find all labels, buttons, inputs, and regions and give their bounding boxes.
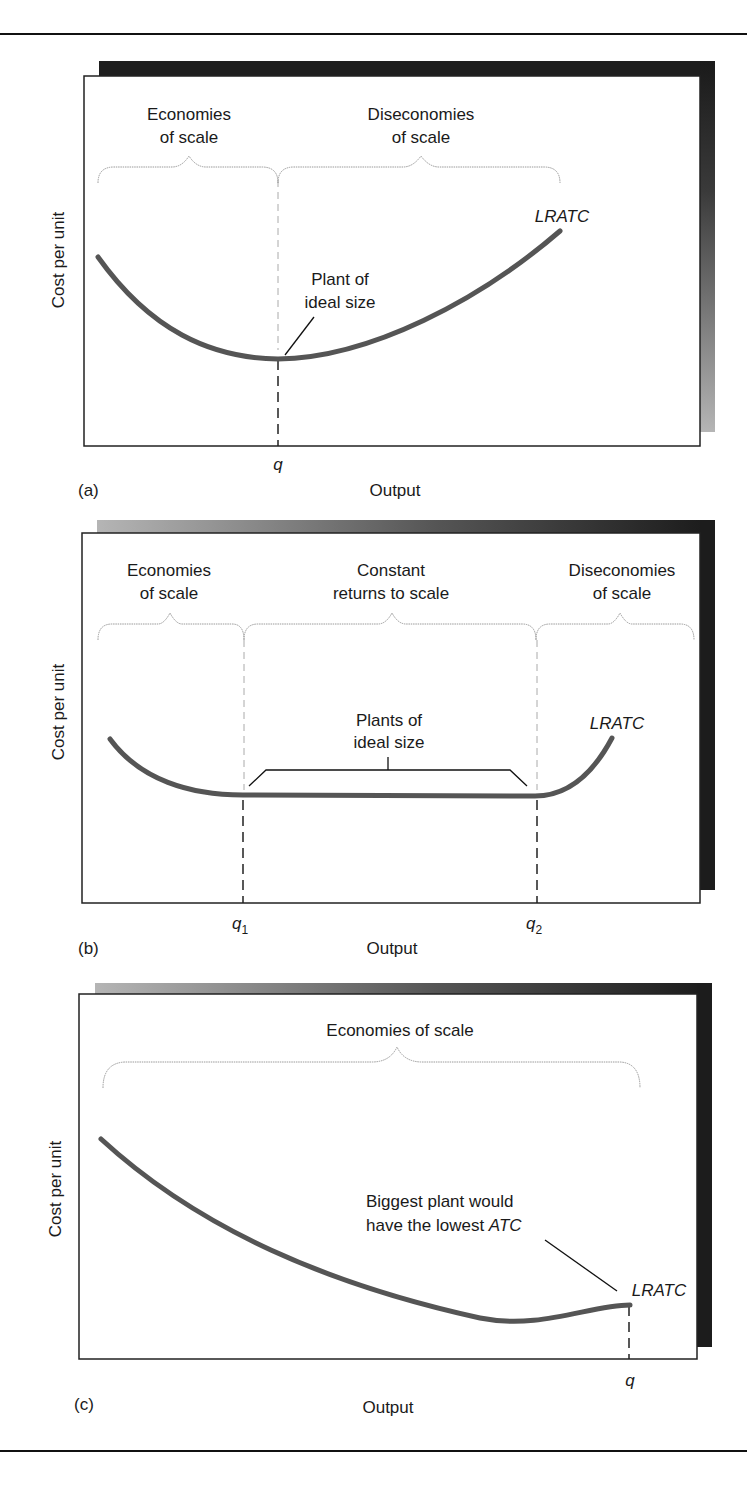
- panel-a-xlabel: Output: [369, 481, 420, 500]
- panel-a-annotation-line1: Plant of: [311, 270, 369, 289]
- panel-c-frame: [79, 994, 697, 1359]
- panel-a-region-2-line2: of scale: [392, 128, 451, 147]
- panel-b-ylabel: Cost per unit: [49, 664, 68, 761]
- panel-c: Economies of scale Cost per unit LRATC B…: [46, 983, 712, 1417]
- panel-a-ylabel: Cost per unit: [49, 212, 68, 309]
- panel-b-tick-q1: q1: [232, 914, 248, 937]
- panel-c-shadow-top: [95, 983, 712, 995]
- panel-b: Economies of scale Constant returns to s…: [49, 520, 715, 958]
- panel-a-region-1-line2: of scale: [160, 128, 219, 147]
- panel-c-ylabel: Cost per unit: [46, 1141, 65, 1238]
- panel-b-region-3-line1: Diseconomies: [569, 561, 676, 580]
- panel-b-label: (b): [78, 939, 99, 958]
- panel-a-region-1-line1: Economies: [147, 105, 231, 124]
- panel-b-region-3-line2: of scale: [593, 584, 652, 603]
- panel-b-region-2-line1: Constant: [357, 561, 425, 580]
- panel-a-region-2-line1: Diseconomies: [368, 105, 475, 124]
- figure-canvas: Economies of scale Diseconomies of scale…: [0, 0, 747, 1496]
- panel-c-curve-label: LRATC: [632, 1281, 687, 1300]
- panel-c-shadow-right: [697, 983, 712, 1347]
- panel-c-label: (c): [74, 1395, 94, 1414]
- panel-a-annotation-line2: ideal size: [305, 293, 376, 312]
- panel-a: Economies of scale Diseconomies of scale…: [49, 61, 715, 500]
- panel-a-shadow-top: [99, 61, 715, 77]
- panel-b-shadow-right: [700, 520, 715, 890]
- panel-c-annotation-line1: Biggest plant would: [366, 1192, 513, 1211]
- panel-a-shadow-right: [700, 61, 715, 432]
- panel-b-xlabel: Output: [366, 939, 417, 958]
- panel-b-tick-q2: q2: [526, 914, 542, 937]
- panel-a-curve-label: LRATC: [535, 207, 590, 226]
- panel-a-tick-q: q: [273, 455, 283, 474]
- panel-b-shadow-top: [97, 520, 715, 534]
- panel-b-curve-label: LRATC: [590, 714, 645, 733]
- panel-a-label: (a): [78, 481, 99, 500]
- panel-b-annotation-line2: ideal size: [354, 733, 425, 752]
- panel-b-annotation-line1: Plants of: [356, 711, 422, 730]
- panel-b-region-1-line2: of scale: [140, 584, 199, 603]
- panel-c-annotation-line2: have the lowest ATC: [366, 1216, 522, 1235]
- panel-c-xlabel: Output: [362, 1398, 413, 1417]
- panel-c-region-1: Economies of scale: [326, 1021, 473, 1040]
- panel-b-region-1-line1: Economies: [127, 561, 211, 580]
- panel-b-region-2-line2: returns to scale: [333, 584, 449, 603]
- panel-c-tick-q: q: [625, 1371, 635, 1390]
